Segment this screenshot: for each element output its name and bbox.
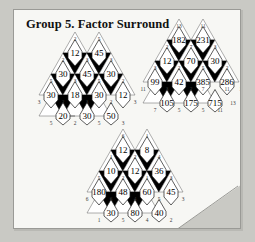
cell-value: 20 (59, 111, 69, 121)
factor-label: 6 (110, 196, 113, 202)
factor-label: 6 (86, 196, 89, 202)
factor-surround-bottom[interactable]: 12 8 10 12 36 180 48 60 45 30 80 40 6 1 (76, 125, 194, 227)
factor-label: 13 (239, 86, 241, 92)
factor-label: 11 (200, 23, 205, 29)
cell-value: 12 (71, 48, 80, 58)
factor-label: 1 (110, 154, 113, 160)
factor-label: 4 (146, 217, 149, 223)
factor-label: 11 (217, 107, 222, 113)
factor-label: 3 (170, 175, 173, 181)
cell-value: 30 (95, 90, 105, 100)
cell-value: 175 (184, 98, 198, 108)
factor-label: 3 (166, 86, 169, 92)
factor-label: 2 (122, 78, 125, 84)
cell-value: 30 (59, 69, 69, 79)
cell-value: 12 (131, 166, 140, 176)
factor-surround-left[interactable]: 12 45 30 45 30 30 18 30 12 20 30 50 2 5 (28, 28, 146, 130)
factor-label: 3 (86, 57, 89, 63)
factor-label: 5 (50, 120, 53, 126)
factor-label: 5 (158, 196, 161, 202)
factor-label: 2 (62, 57, 65, 63)
cell-value: 12 (119, 90, 128, 100)
cell-value: 30 (107, 208, 117, 218)
factor-label: 3 (214, 44, 217, 50)
cell-value: 45 (83, 69, 93, 79)
cell-value: 50 (107, 111, 117, 121)
cell-value: 30 (83, 111, 93, 121)
cell-value: 42 (175, 77, 184, 87)
factor-label: 7 (202, 86, 205, 92)
factor-label: 2 (74, 36, 77, 42)
cell-value: 70 (187, 56, 197, 66)
factor-label: 5 (202, 65, 205, 71)
right-puzzle-svg: 182 231 12 70 30 99 42 385 286 105 175 7… (132, 15, 241, 117)
factor-label: 7 (154, 107, 157, 113)
factor-label: 3 (154, 65, 157, 71)
factor-label: 3 (86, 99, 89, 105)
cell-value: 10 (107, 166, 117, 176)
factor-label: 5 (98, 36, 101, 42)
cell-value: 30 (107, 69, 117, 79)
factor-label: 2 (178, 65, 181, 71)
cell-value: 180 (92, 187, 106, 197)
cell-value: 45 (95, 48, 105, 58)
factor-label: 2 (62, 99, 65, 105)
factor-label: 5 (122, 217, 125, 223)
factor-label: 4 (158, 154, 161, 160)
cell-value: 48 (119, 187, 129, 197)
factor-label: 1 (98, 217, 101, 223)
factor-label: 13 (230, 100, 236, 106)
factor-label: 2 (190, 86, 193, 92)
factor-label: 2 (170, 217, 173, 223)
factor-label: 2 (134, 154, 137, 160)
factor-label: 13 (176, 23, 182, 29)
factor-label: 1 (146, 133, 149, 139)
factor-label: 3 (182, 196, 185, 202)
cell-value: 45 (167, 187, 177, 197)
cell-value: 36 (155, 166, 165, 176)
cell-value: 60 (143, 187, 153, 197)
paper-sheet: Group 5. Factor Surround (13, 9, 241, 229)
factor-label: 5 (178, 107, 181, 113)
cell-value: 18 (71, 90, 81, 100)
factor-label: 2 (122, 175, 125, 181)
factor-label: 5 (202, 107, 205, 113)
cell-value: 231 (196, 35, 210, 45)
factor-label: 2 (110, 99, 113, 105)
cell-value: 40 (155, 208, 165, 218)
factor-label: 2 (226, 65, 229, 71)
factor-label: 11 (224, 86, 229, 92)
cell-value: 99 (151, 77, 161, 87)
factor-label: 5 (98, 175, 101, 181)
factor-label: 2 (166, 44, 169, 50)
factor-label: 5 (50, 78, 53, 84)
cell-value: 182 (172, 35, 186, 45)
factor-label: 3 (38, 99, 41, 105)
factor-label: 6 (122, 133, 125, 139)
factor-label: 11 (140, 86, 145, 92)
cell-value: 105 (160, 98, 174, 108)
cell-value: 80 (131, 208, 141, 218)
cell-value: 12 (163, 56, 172, 66)
factor-label: 4 (134, 196, 137, 202)
cell-value: 30 (211, 56, 221, 66)
page-root: Group 5. Factor Surround (0, 0, 255, 242)
left-puzzle-svg: 12 45 30 45 30 30 18 30 12 20 30 50 2 5 (28, 28, 146, 130)
cell-value: 8 (145, 145, 150, 155)
factor-label: 1 (146, 175, 149, 181)
factor-label: 3 (74, 78, 77, 84)
factor-label: 7 (190, 44, 193, 50)
factor-label: 3 (110, 57, 113, 63)
bottom-puzzle-svg: 12 8 10 12 36 180 48 60 45 30 80 40 6 1 (76, 125, 194, 227)
cell-value: 12 (119, 145, 128, 155)
factor-surround-right[interactable]: 182 231 12 70 30 99 42 385 286 105 175 7… (132, 15, 241, 117)
factor-label: 5 (98, 78, 101, 84)
cell-value: 30 (47, 90, 57, 100)
